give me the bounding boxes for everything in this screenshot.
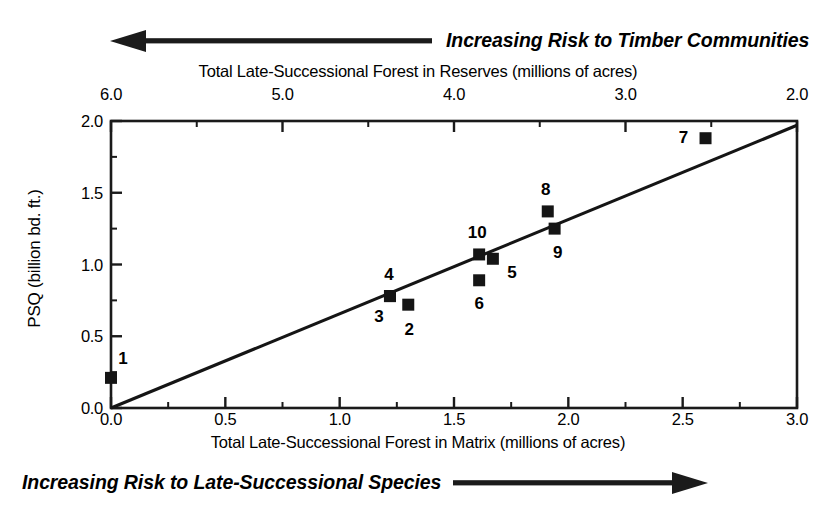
data-point-4 bbox=[384, 290, 396, 302]
data-point-label-2: 2 bbox=[405, 320, 414, 337]
data-point-label-6: 6 bbox=[474, 295, 483, 312]
x2-tick-label-3: 3.0 bbox=[614, 86, 636, 103]
data-point-1 bbox=[105, 372, 117, 384]
data-point-label-5: 5 bbox=[507, 263, 516, 280]
data-point-label-3: 3 bbox=[374, 308, 383, 325]
x-tick-label-2: 1.0 bbox=[329, 411, 351, 428]
y-tick-label-1: 0.5 bbox=[55, 328, 103, 345]
x-tick-label-0: 0.0 bbox=[100, 411, 122, 428]
data-point-7 bbox=[700, 132, 712, 144]
data-point-8 bbox=[542, 205, 554, 217]
y-tick-label-3: 1.5 bbox=[55, 185, 103, 202]
x-tick-label-4: 2.0 bbox=[557, 411, 579, 428]
x-axis-title: Total Late-Successional Forest in Matrix… bbox=[0, 434, 836, 451]
x2-tick-label-2: 4.0 bbox=[443, 86, 465, 103]
x-tick-label-6: 3.0 bbox=[786, 411, 808, 428]
x2-tick-label-0: 6.0 bbox=[100, 86, 122, 103]
arrow-right-icon bbox=[453, 470, 708, 496]
data-point-label-7: 7 bbox=[679, 129, 688, 146]
data-point-10 bbox=[473, 248, 485, 260]
data-point-label-9: 9 bbox=[553, 243, 562, 260]
data-point-9 bbox=[549, 223, 561, 235]
bottom-annotation-label: Increasing Risk to Late-Successional Spe… bbox=[22, 473, 441, 493]
figure-container: Increasing Risk to Timber Communities To… bbox=[0, 0, 836, 513]
x-tick-label-5: 2.5 bbox=[672, 411, 694, 428]
x2-tick-label-1: 5.0 bbox=[271, 86, 293, 103]
x-tick-label-3: 1.5 bbox=[443, 411, 465, 428]
data-point-label-1: 1 bbox=[118, 349, 127, 366]
data-point-label-10: 10 bbox=[468, 224, 487, 241]
bottom-annotation: Increasing Risk to Late-Successional Spe… bbox=[22, 466, 812, 500]
x2-tick-label-4: 2.0 bbox=[786, 86, 808, 103]
data-point-5 bbox=[487, 253, 499, 265]
data-point-label-4: 4 bbox=[384, 266, 393, 283]
data-point-2 bbox=[402, 299, 414, 311]
y-tick-label-4: 2.0 bbox=[55, 113, 103, 130]
y-tick-label-2: 1.0 bbox=[55, 256, 103, 273]
data-point-6 bbox=[473, 274, 485, 286]
x-tick-label-1: 0.5 bbox=[214, 411, 236, 428]
y-tick-label-0: 0.0 bbox=[55, 400, 103, 417]
data-point-label-8: 8 bbox=[541, 181, 550, 198]
